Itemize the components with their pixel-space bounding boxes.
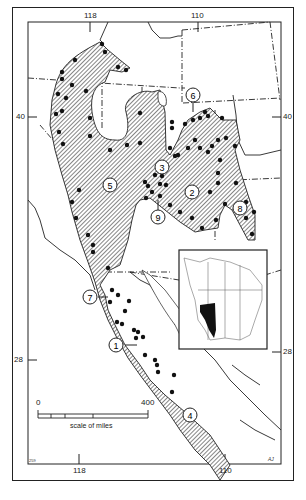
- svg-text:3: 3: [159, 163, 164, 173]
- svg-text:7: 7: [87, 293, 92, 303]
- inset-map: [179, 250, 267, 349]
- lat-label-left-28: 28: [14, 355, 23, 364]
- lat-label-left-40: 40: [16, 112, 25, 121]
- region-label-8: 8: [233, 201, 247, 215]
- svg-text:4: 4: [187, 411, 192, 421]
- svg-text:1: 1: [113, 341, 118, 351]
- corner-note-right: AJ: [268, 456, 274, 462]
- lon-label-top-110: 110: [191, 11, 204, 20]
- svg-text:6: 6: [190, 91, 195, 101]
- corner-note-left: 259: [29, 458, 36, 463]
- svg-text:5: 5: [107, 181, 112, 191]
- svg-text:8: 8: [237, 204, 242, 214]
- lat-label-right-28: 28: [283, 347, 292, 356]
- distribution-map: 1 2 3 4 5 6 7 8 9: [0, 0, 306, 500]
- svg-text:9: 9: [155, 213, 160, 223]
- scale-end-label: 400: [141, 398, 154, 407]
- scale-caption: scale of miles: [70, 422, 112, 429]
- region-label-2: 2: [185, 185, 199, 199]
- scale-start-label: 0: [36, 398, 40, 407]
- region-label-5: 5: [103, 178, 117, 192]
- region-label-3: 3: [155, 160, 169, 174]
- region-label-6: 6: [186, 88, 200, 112]
- lon-label-bottom-110: 110: [219, 466, 232, 475]
- region-label-4: 4: [183, 408, 197, 422]
- lat-label-right-40: 40: [283, 112, 292, 121]
- lon-label-top-118: 118: [84, 11, 97, 20]
- svg-text:2: 2: [189, 188, 194, 198]
- lon-label-bottom-118: 118: [73, 466, 86, 475]
